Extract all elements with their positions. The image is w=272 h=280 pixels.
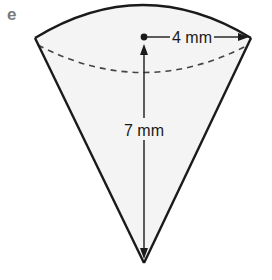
radius-label: 4 mm — [172, 29, 212, 46]
center-dot — [141, 34, 148, 41]
cone-diagram: 4 mm 7 mm — [0, 0, 272, 280]
height-label: 7 mm — [124, 122, 164, 139]
